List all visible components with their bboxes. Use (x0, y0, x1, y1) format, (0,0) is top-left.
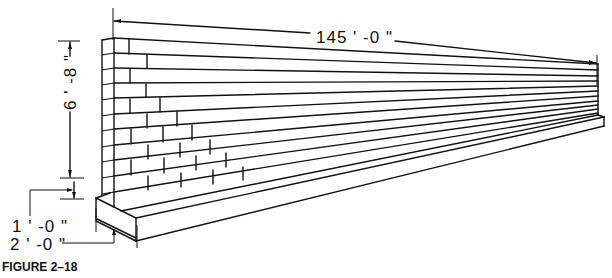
length-label: 145 ' -0 " (316, 28, 393, 47)
brick-wall (102, 38, 598, 207)
footing-width-label: 2 ' -0 " (10, 235, 66, 254)
footing-thickness-dimension: 1 ' -0 " (12, 182, 84, 236)
height-dimension: 6 ' -8 " (58, 41, 84, 178)
figure-caption: FIGURE 2–18 (2, 260, 77, 274)
length-dimension: 145 ' -0 " (113, 8, 597, 85)
footing (96, 115, 604, 241)
footing-thickness-label: 1 ' -0 " (12, 217, 68, 236)
wall-footing-diagram: 145 ' -0 " 6 ' -8 " 1 ' -0 " 2 ' -0 " (0, 0, 612, 278)
height-label: 6 ' -8 " (61, 54, 80, 110)
